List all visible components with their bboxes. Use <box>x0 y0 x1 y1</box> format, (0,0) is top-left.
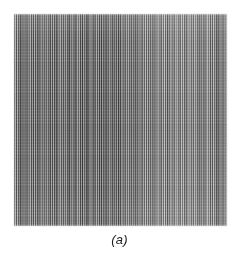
striped-image-plate <box>14 14 227 226</box>
figure-page: (a) <box>0 0 239 261</box>
vertical-shading-overlay <box>14 14 227 226</box>
figure-caption: (a) <box>0 232 239 248</box>
